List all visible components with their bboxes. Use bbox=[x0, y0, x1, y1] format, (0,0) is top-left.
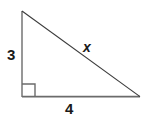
right-angle-marker-icon bbox=[22, 84, 35, 97]
label-horizontal-leg: 4 bbox=[65, 101, 73, 116]
label-vertical-leg: 3 bbox=[7, 47, 15, 62]
triangle-graphic bbox=[0, 0, 150, 119]
right-triangle-figure: 3 4 x bbox=[0, 0, 150, 119]
label-hypotenuse: x bbox=[83, 40, 91, 54]
hypotenuse-line bbox=[22, 11, 140, 97]
